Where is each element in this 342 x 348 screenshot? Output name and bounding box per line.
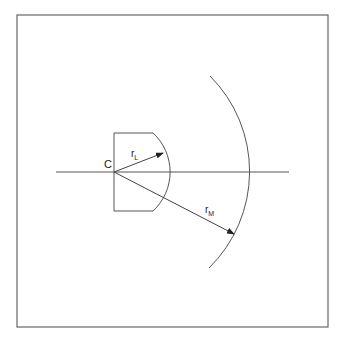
lens-radius-label: rL <box>131 148 138 161</box>
lens-radius-arrow <box>114 153 163 172</box>
frame-border <box>17 15 328 327</box>
mirror-radius-arrow <box>114 172 234 234</box>
optics-diagram: C rL rM <box>0 0 342 348</box>
center-label: C <box>104 158 112 170</box>
mirror-radius-label: rM <box>205 204 214 217</box>
